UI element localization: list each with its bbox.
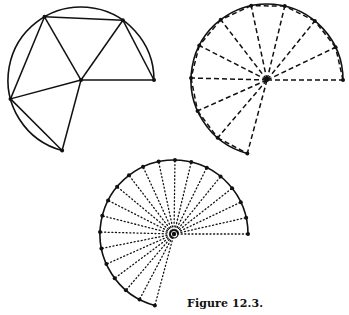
vertex-point [104,262,108,266]
chord-line [285,6,315,21]
vertex-point [189,160,193,164]
radius-line [108,200,174,234]
radius-line [198,80,267,111]
radius-line [267,6,285,80]
vertex-point [219,18,223,22]
vertex-point [115,185,119,189]
vertex-point [189,76,193,80]
vertex-point [341,78,345,82]
vertex-point [79,78,83,82]
vertex-point [245,151,249,155]
vertex-point [99,246,103,250]
chord-line [221,6,251,20]
vertex-point [172,232,176,236]
radius-line [159,162,174,234]
vertex-point [124,288,128,292]
vertex-point [313,19,317,23]
vertex-point [152,78,156,82]
chord-line [123,20,154,80]
vertex-point [230,186,234,190]
vertex-point [246,232,250,236]
radius-line [174,160,175,234]
vertex-point [334,45,338,49]
chord-line [191,45,199,78]
radius-line [267,47,336,80]
vertex-point [121,18,125,22]
radius-line [45,17,82,80]
vertex-point [138,297,142,301]
vertex-point [100,214,104,218]
radius-line [221,20,267,80]
chord-line [45,17,123,20]
vertex-point [141,165,145,169]
radius-line [143,167,174,234]
radius-line [247,80,267,153]
vertex-point [239,200,243,204]
vertex-point [113,276,117,280]
radius-line [101,234,174,248]
vertex-point [43,15,47,19]
vertex-point [244,216,248,220]
vertex-point [157,160,161,164]
chord-line [218,138,248,154]
radius-line [251,6,267,80]
vertex-point [98,230,102,234]
radius-line [62,80,81,151]
radius-line [106,234,174,264]
chord-line [199,20,220,46]
vertex-point [127,173,131,177]
figure-canvas [0,0,349,315]
figure-caption: Figure 12.3. [187,297,263,310]
chord-line [10,99,62,151]
vertex-point [265,78,269,82]
vertex-point [153,303,157,307]
chord-line [198,111,218,138]
radius-line [267,21,315,80]
vertex-point [205,166,209,170]
radius-line [191,78,267,80]
radius-line [100,232,174,234]
vertex-point [249,4,253,8]
vertex-point [173,158,177,162]
radius-line [218,80,267,138]
vertex-point [196,109,200,113]
vertex-point [8,97,12,101]
radius-line [81,20,123,80]
vertex-point [216,136,220,140]
radius-line [174,168,207,234]
vertex-point [60,149,64,153]
radius-line [10,80,81,99]
radius-line [140,234,174,299]
figure-triangle-approximation [8,7,156,153]
radius-line [199,45,267,80]
vertex-point [197,43,201,47]
figure-dotted-sectors [98,158,250,307]
vertex-point [106,198,110,202]
vertex-point [219,174,223,178]
vertex-point [283,4,287,8]
figure-dashed-sectors [189,4,345,156]
chord-line [315,21,336,47]
